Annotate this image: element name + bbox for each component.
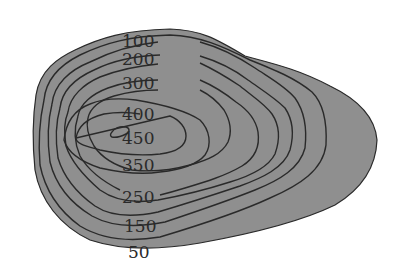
elevation-label-400: 400 <box>122 104 154 124</box>
elevation-label-450: 450 <box>122 128 154 148</box>
elevation-label-350: 350 <box>122 155 154 175</box>
elevation-label-200: 200 <box>122 49 154 69</box>
elevation-label-100: 100 <box>122 31 154 51</box>
elevation-label-300: 300 <box>122 73 154 93</box>
contour-map: 100 200 300 400 450 350 250 150 50 <box>0 0 409 277</box>
elevation-label-250: 250 <box>122 187 154 207</box>
elevation-label-50: 50 <box>128 242 150 262</box>
contour-band-0 <box>33 29 377 248</box>
elevation-label-150: 150 <box>124 216 156 236</box>
